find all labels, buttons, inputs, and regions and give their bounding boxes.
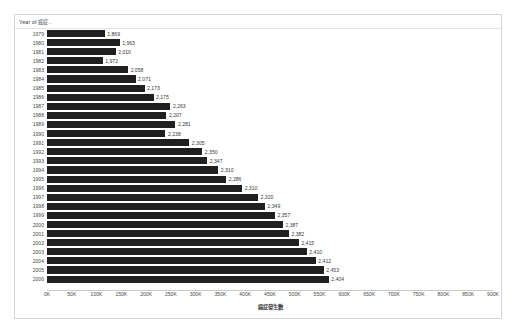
bar[interactable] [47,39,120,46]
bar[interactable] [47,203,265,210]
bar-value-label: 2,305 [192,140,205,146]
bar-row[interactable]: 19862,175 [15,93,501,102]
bar-track: 2,305 [47,138,501,147]
axis-tick: 150K [115,291,127,297]
bar[interactable] [47,185,242,192]
bar-row[interactable]: 19832,058 [15,65,501,74]
y-axis-category-label: 2006 [15,276,47,282]
bar-row[interactable]: 19962,310 [15,184,501,193]
bar-track: 2,175 [47,93,501,102]
bar-row[interactable]: 19882,207 [15,111,501,120]
bar[interactable] [47,130,165,137]
bar-track: 2,349 [47,202,501,211]
bar-value-label: 2,320 [261,194,274,200]
bar-track: 2,453 [47,265,501,274]
bar[interactable] [47,30,105,37]
plot-area: 19791,86919801,96319812,01019821,9721983… [15,29,501,290]
bar-row[interactable]: 19912,305 [15,138,501,147]
axis-tick: 450K [264,291,276,297]
field-header-label: Year of 癌症.. [15,18,52,26]
axis-tick: 300K [190,291,202,297]
y-axis-category-label: 2002 [15,240,47,246]
bar-track: 1,963 [47,38,501,47]
bar-value-label: 2,349 [268,203,281,209]
bar[interactable] [47,157,207,164]
bar-row[interactable]: 19922,350 [15,147,501,156]
bar-track: 2,404 [47,275,501,284]
bar-value-label: 2,387 [285,222,298,228]
bar[interactable] [47,166,218,173]
bar-row[interactable]: 19852,173 [15,84,501,93]
bar[interactable] [47,57,103,64]
bar-track: 2,310 [47,184,501,193]
bar-value-label: 1,972 [105,58,118,64]
y-axis-category-label: 1979 [15,31,47,37]
bar-row[interactable]: 20062,404 [15,275,501,284]
bar-row[interactable]: 20032,410 [15,247,501,256]
bar[interactable] [47,139,189,146]
bar[interactable] [47,112,166,119]
bar-row[interactable]: 19842,071 [15,74,501,83]
bar-value-label: 2,404 [331,276,344,282]
bar[interactable] [47,230,289,237]
bar[interactable] [47,148,202,155]
bar-row[interactable]: 19952,286 [15,175,501,184]
bar-track: 2,173 [47,84,501,93]
bar-value-label: 2,175 [156,94,169,100]
bar-row[interactable]: 19872,263 [15,102,501,111]
bar-track: 2,071 [47,74,501,83]
chart-card: Year of 癌症.. 19791,86919801,96319812,010… [14,14,502,319]
bar-value-label: 2,347 [210,158,223,164]
bar-value-label: 2,010 [118,49,131,55]
bar-row[interactable]: 19972,320 [15,193,501,202]
y-axis-category-label: 2000 [15,222,47,228]
bar[interactable] [47,221,283,228]
bar-value-label: 2,310 [245,185,258,191]
bar-row[interactable]: 19812,010 [15,47,501,56]
field-header: Year of 癌症.. [15,15,501,29]
bar-row[interactable]: 19992,357 [15,211,501,220]
bar-row[interactable]: 20052,453 [15,265,501,274]
bar-value-label: 2,058 [131,67,144,73]
bar-row[interactable]: 19982,349 [15,202,501,211]
bar[interactable] [47,176,226,183]
bar[interactable] [47,276,329,283]
bar-track: 2,281 [47,120,501,129]
bar[interactable] [47,85,145,92]
bar[interactable] [47,48,116,55]
y-axis-category-label: 1990 [15,131,47,137]
bar-row[interactable]: 19821,972 [15,56,501,65]
bar-track: 2,238 [47,129,501,138]
bar[interactable] [47,194,258,201]
bar[interactable] [47,121,175,128]
y-axis-category-label: 1988 [15,112,47,118]
bar-row[interactable]: 19791,869 [15,29,501,38]
bar-track: 2,263 [47,102,501,111]
bar-row[interactable]: 20012,382 [15,229,501,238]
bar-value-label: 2,071 [138,76,151,82]
bar[interactable] [47,66,128,73]
bar[interactable] [47,75,136,82]
bar-row[interactable]: 19932,347 [15,156,501,165]
axis-tick: 500K [289,291,301,297]
bar-track: 2,310 [47,165,501,174]
bar[interactable] [47,266,324,273]
bar-row[interactable]: 19892,281 [15,120,501,129]
y-axis-category-label: 1996 [15,185,47,191]
bar-row[interactable]: 19942,310 [15,165,501,174]
bar-row[interactable]: 20042,412 [15,256,501,265]
y-axis-category-label: 1993 [15,158,47,164]
bar-row[interactable]: 20002,387 [15,220,501,229]
bar-track: 2,415 [47,238,501,247]
bar-row[interactable]: 19801,963 [15,38,501,47]
bar[interactable] [47,239,299,246]
y-axis-category-label: 1985 [15,85,47,91]
bar[interactable] [47,103,170,110]
bar-row[interactable]: 19902,238 [15,129,501,138]
y-axis-category-label: 1995 [15,176,47,182]
bar[interactable] [47,257,316,264]
bar-row[interactable]: 20022,415 [15,238,501,247]
bar[interactable] [47,212,275,219]
bar[interactable] [47,248,307,255]
bar[interactable] [47,94,154,101]
